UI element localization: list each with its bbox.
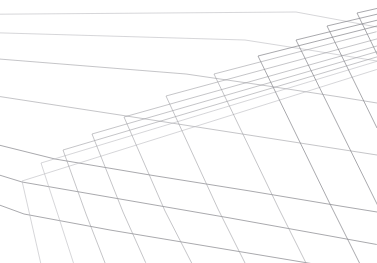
canvas-background [0, 0, 377, 263]
perspective-grid-svg [0, 0, 377, 263]
grid-canvas [0, 0, 377, 263]
